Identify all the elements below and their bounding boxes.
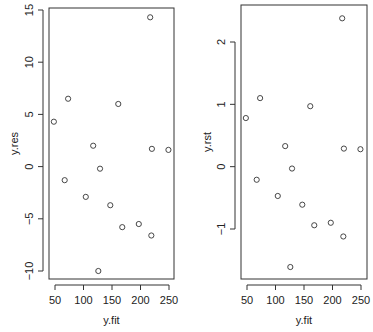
data-point bbox=[108, 203, 113, 208]
data-point bbox=[312, 223, 317, 228]
y-axis: −10−5051015y.res bbox=[8, 4, 43, 280]
data-point bbox=[308, 104, 313, 109]
y-tick-label: 10 bbox=[23, 56, 35, 68]
data-point bbox=[116, 101, 121, 106]
x-tick-label: 200 bbox=[323, 294, 341, 306]
x-tick-label: 150 bbox=[295, 294, 313, 306]
x-tick-label: 50 bbox=[241, 294, 253, 306]
data-point bbox=[149, 233, 154, 238]
x-tick-label: 200 bbox=[131, 294, 149, 306]
data-point bbox=[258, 96, 263, 101]
x-axis-label: y.fit bbox=[103, 314, 119, 326]
scatter-panel-1: 50100150200250y.fit−10−5051015y.res bbox=[8, 4, 178, 326]
y-axis-label: y.rst bbox=[201, 132, 213, 152]
data-point bbox=[328, 220, 333, 225]
data-point bbox=[283, 143, 288, 148]
data-point bbox=[62, 178, 67, 183]
data-point bbox=[136, 221, 141, 226]
data-point bbox=[288, 264, 293, 269]
data-point bbox=[300, 202, 305, 207]
x-tick-label: 150 bbox=[103, 294, 121, 306]
data-point bbox=[96, 268, 101, 273]
data-point bbox=[341, 234, 346, 239]
data-point bbox=[149, 146, 154, 151]
data-points bbox=[243, 16, 363, 270]
data-point bbox=[254, 177, 259, 182]
data-point bbox=[83, 194, 88, 199]
x-tick-label: 250 bbox=[160, 294, 178, 306]
data-point bbox=[243, 115, 248, 120]
data-point bbox=[358, 147, 363, 152]
x-axis-label: y.fit bbox=[296, 314, 312, 326]
y-tick-label: 5 bbox=[23, 111, 35, 117]
y-tick-label: −10 bbox=[23, 262, 35, 281]
chart-canvas: 50100150200250y.fit−10−5051015y.res50100… bbox=[0, 0, 373, 332]
data-point bbox=[148, 15, 153, 20]
data-point bbox=[340, 16, 345, 21]
x-tick-label: 100 bbox=[74, 294, 92, 306]
data-point bbox=[120, 225, 125, 230]
plot-frame bbox=[49, 8, 174, 279]
data-point bbox=[97, 166, 102, 171]
data-point bbox=[51, 119, 56, 124]
y-tick-label: 15 bbox=[23, 4, 35, 16]
y-axis-label: y.res bbox=[8, 131, 20, 155]
data-point bbox=[289, 166, 294, 171]
x-tick-label: 50 bbox=[49, 294, 61, 306]
plot-frame bbox=[241, 5, 367, 279]
y-tick-label: 0 bbox=[215, 164, 227, 170]
y-tick-label: 2 bbox=[215, 39, 227, 45]
x-axis: 50100150200250y.fit bbox=[49, 285, 178, 326]
x-tick-label: 250 bbox=[352, 294, 370, 306]
y-tick-label: −1 bbox=[215, 223, 227, 236]
y-tick-label: 1 bbox=[215, 101, 227, 107]
x-axis: 50100150200250y.fit bbox=[241, 285, 370, 326]
y-tick-label: −5 bbox=[23, 213, 35, 226]
data-point bbox=[91, 143, 96, 148]
scatter-panel-2: 50100150200250y.fit−1012y.rst bbox=[201, 5, 370, 326]
data-point bbox=[341, 146, 346, 151]
data-point bbox=[275, 193, 280, 198]
y-tick-label: 0 bbox=[23, 164, 35, 170]
data-point bbox=[66, 96, 71, 101]
x-tick-label: 100 bbox=[266, 294, 284, 306]
data-point bbox=[166, 147, 171, 152]
data-points bbox=[51, 15, 171, 274]
y-axis: −1012y.rst bbox=[201, 39, 235, 235]
